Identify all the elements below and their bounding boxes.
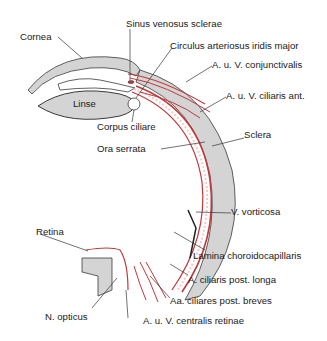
posterior-vessels	[134, 262, 166, 302]
label-v-vorticosa: V. vorticosa	[231, 206, 281, 217]
sinus-shape	[128, 81, 134, 84]
eye-anatomy-diagram: Cornea Sinus venosus sclerae Circulus ar…	[0, 0, 327, 341]
optic-nerve-shape	[82, 258, 112, 296]
label-linse: Linse	[73, 98, 96, 109]
label-cornea: Cornea	[20, 31, 52, 42]
label-circulus-arteriosus: Circulus arteriosus iridis major	[170, 40, 299, 51]
ciliary-body-shape	[128, 98, 140, 110]
label-ciliaris-ant: A. u. V. ciliaris ant.	[226, 90, 305, 101]
label-sclera: Sclera	[244, 129, 272, 140]
label-sinus-venosus-sclerae: Sinus venosus sclerae	[126, 18, 222, 29]
label-conjunctivalis: A. u. V. conjunctivalis	[212, 59, 303, 70]
label-ciliaris-post-longa: A. ciliaris post. longa	[188, 274, 277, 285]
label-lamina-choroidocapillaris: Lamina choroidocapillaris	[193, 250, 301, 261]
label-corpus-ciliare: Corpus ciliare	[97, 121, 156, 132]
iris-shape	[58, 79, 135, 92]
sclera-shape	[136, 70, 235, 300]
label-n-opticus: N. opticus	[45, 311, 88, 322]
label-retina: Retina	[36, 226, 64, 237]
label-ora-serrata: Ora serrata	[97, 143, 146, 154]
label-ciliares-post-breves: Aa. ciliares post. breves	[170, 295, 272, 306]
label-centralis-retinae: A. u. V. centralis retinae	[143, 315, 244, 326]
